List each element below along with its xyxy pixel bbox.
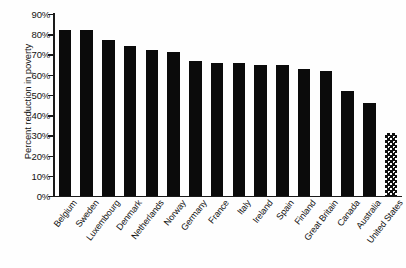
bar-norway [167, 52, 180, 196]
y-axis-tick-labels: 90%80%70%60%50%40%30%20%10%0% [16, 0, 50, 268]
bar-great-britain [320, 71, 333, 196]
x-axis-category-labels: BelgiumSwedenLuxembourgDenmarkNetherland… [53, 198, 405, 268]
bar-chart: Percent reduction in poverty 90%80%70%60… [0, 0, 406, 268]
bar-belgium [59, 30, 72, 196]
y-axis-tick-mark [48, 95, 53, 96]
y-axis-tick-mark [48, 14, 53, 15]
bar-sweden [80, 30, 93, 196]
bar-luxembourg [102, 40, 115, 196]
y-axis-tick-mark [48, 34, 53, 35]
y-axis-tick-mark [48, 115, 53, 116]
plot-area [53, 14, 401, 196]
bar-australia [363, 103, 376, 196]
x-axis-label-ireland: Ireland [250, 198, 274, 225]
y-axis-tick-mark [48, 176, 53, 177]
bar-italy [233, 63, 246, 196]
bar-united-states [385, 133, 398, 196]
bar-ireland [254, 65, 267, 196]
bar-netherlands [146, 50, 159, 196]
bar-finland [298, 69, 311, 196]
y-axis-tick-mark [48, 135, 53, 136]
x-axis-label-france: France [206, 198, 231, 226]
x-axis-label-italy: Italy [235, 198, 253, 217]
y-axis-tick-mark [48, 75, 53, 76]
bar-germany [189, 61, 202, 196]
bar-spain [276, 65, 289, 196]
bar-denmark [124, 46, 137, 196]
y-axis-tick-mark [48, 54, 53, 55]
y-axis-tick-mark [48, 156, 53, 157]
bar-canada [341, 91, 354, 196]
bar-france [211, 63, 224, 196]
y-axis-tick-mark [48, 196, 53, 197]
